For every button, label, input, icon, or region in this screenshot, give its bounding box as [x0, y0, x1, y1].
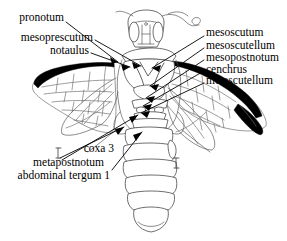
label-metascutellum: metascutellum [206, 74, 273, 86]
abdomen-group [123, 127, 177, 232]
metapostnotum-sclerite [132, 119, 168, 129]
antenna-right-tip [168, 12, 188, 16]
antenna-right [162, 14, 200, 25]
compound-eye-left [129, 22, 139, 42]
label-mesoscutellum: mesoscutellum [206, 39, 275, 51]
label-metapostnotum: metapostnotum [0, 156, 104, 168]
head-group [116, 10, 200, 48]
label-notaulus: notaulus [0, 44, 89, 56]
mesoscutum-sclerite [123, 59, 174, 88]
leg-right [182, 130, 210, 152]
abdominal-tergum-6 [134, 207, 169, 232]
label-coxa-3: coxa 3 [0, 142, 114, 154]
sawfly-diagram-figure: pronotum mesoprescutum notaulus mesoscut… [0, 0, 287, 241]
label-mesoprescutum: mesoprescutum [0, 31, 93, 43]
label-mesopostnotum: mesopostnotum [206, 51, 279, 63]
compound-eye-right [153, 22, 163, 42]
label-mesoscutum: mesoscutum [206, 26, 264, 38]
label-pronotum: pronotum [0, 11, 64, 23]
label-abdominal-tergum-1: abdominal tergum 1 [0, 169, 110, 181]
